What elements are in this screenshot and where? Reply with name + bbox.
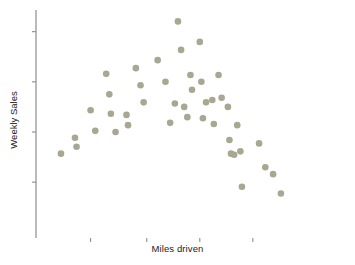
data-point <box>154 57 161 64</box>
y-axis-title: Weekly Sales <box>8 91 19 148</box>
scatter-chart: Weekly Sales Miles driven <box>0 0 355 265</box>
data-point <box>184 114 191 121</box>
data-point <box>167 120 174 127</box>
data-point <box>189 87 196 94</box>
data-point <box>197 39 204 46</box>
data-point <box>256 140 263 147</box>
data-point <box>108 110 115 117</box>
data-point <box>200 115 207 122</box>
data-point <box>198 79 205 86</box>
data-point <box>125 122 132 129</box>
data-point <box>87 107 94 114</box>
data-point <box>203 99 210 106</box>
x-axis-ticks <box>91 238 253 242</box>
data-point <box>137 82 144 89</box>
y-axis-title-wrap: Weekly Sales <box>0 0 26 240</box>
data-point <box>181 104 188 111</box>
plot-area <box>0 0 355 265</box>
axes <box>30 10 350 238</box>
data-point <box>237 148 244 155</box>
data-point <box>123 112 130 119</box>
data-point <box>73 144 80 151</box>
data-point <box>103 71 110 78</box>
data-point <box>58 150 65 157</box>
data-point <box>112 129 119 136</box>
data-point <box>226 137 233 144</box>
x-axis-title: Miles driven <box>0 243 355 254</box>
data-point <box>225 104 232 111</box>
data-point <box>209 97 216 104</box>
data-point <box>239 183 246 190</box>
data-point <box>133 65 140 72</box>
data-point <box>140 99 147 106</box>
data-point <box>270 171 277 178</box>
data-point <box>187 72 194 79</box>
data-point <box>175 18 182 25</box>
data-point <box>211 121 218 128</box>
data-point <box>178 47 185 54</box>
data-point <box>234 122 241 129</box>
data-points <box>58 18 285 197</box>
data-point <box>262 164 269 171</box>
data-point <box>172 100 179 107</box>
data-point <box>162 79 169 86</box>
data-point <box>92 128 99 135</box>
data-point <box>218 94 225 101</box>
data-point <box>72 134 79 141</box>
data-point <box>215 72 222 79</box>
data-point <box>106 91 113 98</box>
data-point <box>278 190 285 197</box>
data-point <box>231 151 238 158</box>
